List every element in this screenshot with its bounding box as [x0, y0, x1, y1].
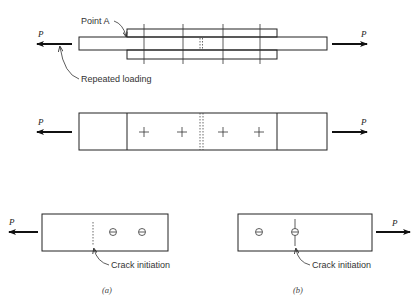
fastener-hole	[139, 229, 146, 236]
point-a-pointer	[114, 21, 126, 36]
load-label-left: P	[37, 29, 44, 39]
plate-b	[238, 214, 372, 251]
caption-a: (a)	[102, 285, 112, 295]
plate-a	[42, 214, 168, 251]
fatigue-diagram: P P Point A Repeated loading P P	[0, 0, 411, 306]
repeated-loading-pointer	[60, 47, 79, 79]
load-label-left: P	[37, 117, 44, 127]
top-cover-plate	[127, 29, 277, 37]
panel-a: P Crack initiation (a)	[8, 214, 170, 295]
fastener-marks	[139, 127, 264, 137]
panel-b: P Crack initiation (b)	[238, 214, 410, 295]
crack-label-a: Crack initiation	[111, 260, 170, 270]
main-bar	[79, 37, 327, 50]
fastener-hole	[292, 229, 299, 236]
lap-joint-diagram: P P Point A Repeated loading	[37, 16, 367, 84]
load-label-a: P	[8, 217, 15, 227]
load-label-right: P	[360, 117, 367, 127]
bottom-cover-plate	[127, 50, 277, 59]
load-label-b: P	[391, 218, 398, 228]
load-label-right: P	[360, 29, 367, 39]
crack-label-b: Crack initiation	[312, 260, 371, 270]
point-a-label: Point A	[81, 16, 110, 26]
fastener-hole	[110, 229, 117, 236]
caption-b: (b)	[293, 285, 303, 295]
repeated-loading-label: Repeated loading	[81, 74, 152, 84]
fastener-hole	[256, 229, 263, 236]
plan-view-diagram: P P	[37, 113, 367, 150]
